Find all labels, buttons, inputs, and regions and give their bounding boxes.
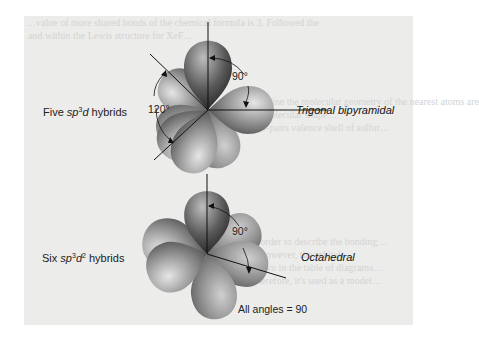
trigonal-bipyramidal-figure [148,22,328,180]
trigonal-bipyramidal-label: Trigonal bipyramidal [296,104,394,116]
angle-90-label-bottom: 90° [232,225,248,237]
angle-120-label: 120° [148,103,170,115]
octahedral-figure [137,174,286,323]
six-hybrids-label: Six sp3d2 hybrids [42,252,124,264]
angle-90-label-top: 90° [232,70,248,82]
octahedral-label: Octahedral [301,251,355,263]
all-angles-note: All angles = 90 [238,303,307,315]
five-hybrids-label: Five sp3d hybrids [43,106,127,118]
